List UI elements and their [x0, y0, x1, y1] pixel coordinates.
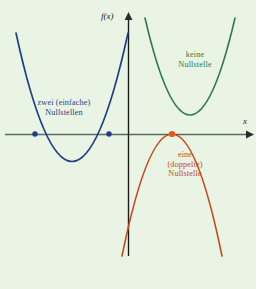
caption-double-root-line-1: eine — [147, 150, 223, 160]
parabola-figure: f(x) x zwei (einfache) Nullstellen keine… — [0, 0, 269, 289]
caption-two-roots: zwei (einfache) Nullstellen — [16, 98, 112, 117]
y-axis-label: f(x) — [101, 11, 114, 21]
double-root-marker — [169, 131, 175, 137]
y-axis-arrowhead — [125, 12, 133, 20]
caption-two-roots-line-2: Nullstellen — [16, 108, 112, 118]
caption-double-root: eine (doppelte) Nullstelle — [147, 150, 223, 179]
caption-no-roots-line-1: keine — [160, 50, 230, 60]
caption-double-root-line-2: (doppelte) — [147, 160, 223, 170]
x-axis-arrowhead — [246, 131, 254, 139]
caption-no-roots-line-2: Nullstelle — [160, 60, 230, 70]
caption-no-roots: keine Nullstelle — [160, 50, 230, 69]
root-marker-right — [106, 131, 111, 136]
x-axis — [5, 131, 254, 139]
right-margin — [256, 0, 269, 289]
caption-two-roots-line-1: zwei (einfache) — [16, 98, 112, 108]
caption-double-root-line-3: Nullstelle — [147, 169, 223, 179]
x-axis-label: x — [243, 116, 247, 126]
plot-canvas — [0, 0, 269, 289]
root-marker-left — [32, 131, 37, 136]
